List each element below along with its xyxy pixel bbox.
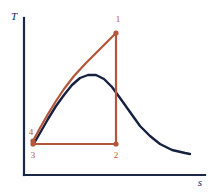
cycle-group	[33, 33, 116, 144]
ts-diagram-figure: 1 2 3 4 T s	[0, 0, 212, 195]
state-label-3: 3	[31, 150, 36, 160]
state-point-4	[30, 138, 35, 143]
y-axis-label: T	[11, 10, 18, 22]
state-label-1: 1	[116, 14, 121, 24]
state-point-1	[113, 30, 118, 35]
x-axis-label: s	[198, 176, 202, 188]
state-point-2	[113, 141, 118, 146]
ts-diagram-canvas: 1 2 3 4 T s	[0, 0, 212, 195]
state-label-4: 4	[29, 127, 34, 137]
saturation-dome-curve	[33, 75, 190, 154]
state-label-2: 2	[114, 150, 119, 160]
state-point-markers	[30, 30, 118, 146]
